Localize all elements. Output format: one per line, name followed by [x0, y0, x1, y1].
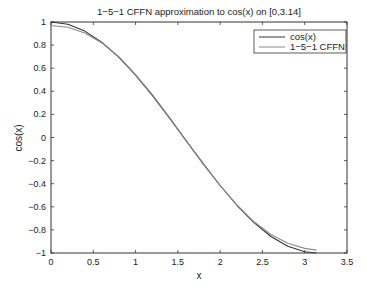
chart: 1−5−1 CFFN approximation to cos(x) on [0…: [0, 0, 367, 293]
x-tick-label: 2.5: [256, 257, 269, 267]
plot-frame: [51, 22, 347, 253]
plot-area: [51, 22, 347, 253]
y-tick-label: −0.6: [28, 202, 46, 212]
y-tick-label: 0.8: [33, 40, 46, 50]
y-tick-label: −1: [36, 248, 46, 258]
y-tick-label: 0.6: [33, 63, 46, 73]
x-tick-label: 2: [218, 257, 223, 267]
y-tick-label: −0.4: [28, 179, 46, 189]
y-tick-label: 1: [41, 17, 46, 27]
y-tick-label: 0.2: [33, 109, 46, 119]
y-axis-label: cos(x): [13, 124, 24, 151]
legend-label-cffn: 1−5−1 CFFN: [290, 41, 345, 52]
y-tick-label: 0: [41, 133, 46, 143]
x-axis-label: x: [197, 270, 202, 281]
x-tick-label: 1: [133, 257, 138, 267]
x-tick-label: 3: [302, 257, 307, 267]
x-tick-label: 0.5: [87, 257, 100, 267]
y-tick-label: 0.4: [33, 86, 46, 96]
x-tick-label: 1.5: [172, 257, 185, 267]
y-tick-label: −0.8: [28, 225, 46, 235]
legend: cos(x) 1−5−1 CFFN: [254, 30, 346, 53]
x-tick-label: 0: [48, 257, 53, 267]
chart-title: 1−5−1 CFFN approximation to cos(x) on [0…: [97, 6, 301, 17]
y-tick-label: −0.2: [28, 156, 46, 166]
x-tick-label: 3.5: [341, 257, 354, 267]
